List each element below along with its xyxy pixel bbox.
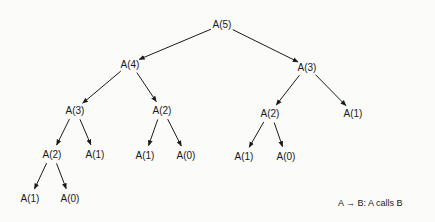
- tree-node: A(0): [277, 151, 296, 162]
- tree-node: A(0): [61, 193, 80, 204]
- call-arrow: [315, 75, 345, 106]
- legend: A → B: A calls B: [338, 198, 403, 208]
- tree-node: A(2): [153, 105, 172, 116]
- tree-node: A(5): [213, 19, 232, 30]
- call-arrow: [249, 122, 264, 147]
- call-arrow: [137, 73, 156, 102]
- call-tree-diagram: A(5)A(4)A(3)A(3)A(2)A(2)A(1)A(2)A(1)A(1)…: [0, 0, 435, 222]
- tree-node: A(0): [177, 150, 196, 161]
- call-arrow: [57, 119, 70, 145]
- tree-node: A(1): [21, 193, 40, 204]
- call-arrow: [139, 29, 211, 59]
- call-arrow: [57, 163, 67, 188]
- tree-node: A(1): [235, 151, 254, 162]
- tree-node: A(4): [121, 59, 140, 70]
- tree-node: A(1): [86, 149, 105, 160]
- tree-node: A(3): [298, 62, 317, 73]
- call-arrow: [80, 119, 91, 145]
- call-arrow: [276, 75, 299, 105]
- tree-node: A(3): [66, 105, 85, 116]
- call-arrow: [83, 71, 121, 103]
- tree-node: A(2): [261, 108, 280, 119]
- call-arrow: [149, 119, 158, 145]
- call-arrow: [274, 122, 282, 146]
- tree-node: A(2): [43, 149, 62, 160]
- tree-node: A(1): [344, 108, 363, 119]
- tree-node: A(1): [136, 150, 155, 161]
- call-arrow: [168, 119, 182, 146]
- call-arrow: [233, 30, 298, 62]
- call-arrow: [34, 163, 46, 189]
